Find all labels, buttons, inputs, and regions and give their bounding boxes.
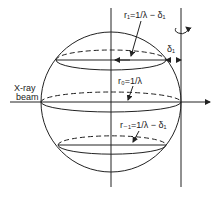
label-delta: δ₁ [167, 44, 175, 54]
label-r0: r₀=1/λ [118, 76, 142, 86]
ewald-sphere-diagram: r₁=1/λ − δ₁ δ₁ r₀=1/λ r₋₁=1/λ − δ₁ X-ray… [0, 0, 219, 197]
label-r1: r₁=1/λ − δ₁ [124, 10, 166, 20]
label-rm1: r₋₁=1/λ − δ₁ [120, 120, 167, 130]
label-beam: beam [16, 92, 39, 102]
bottom-circle-front [58, 145, 166, 154]
bottom-circle-back [58, 136, 166, 145]
